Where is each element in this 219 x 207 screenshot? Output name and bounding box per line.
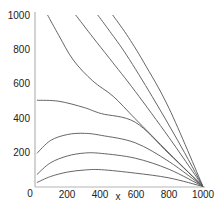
solution-curve	[76, 15, 203, 187]
x-tick-label: 800	[161, 189, 178, 200]
chart: 1000 800 600 400 200 0 200 400 x 600 800…	[0, 0, 219, 207]
curves-group	[37, 15, 203, 187]
solution-curve	[48, 15, 203, 187]
y-tick-label: 600	[13, 78, 30, 89]
y-tick-label: 800	[13, 44, 30, 55]
y-tick-label: 1000	[8, 10, 31, 21]
x-tick-label: 200	[59, 189, 76, 200]
solution-curve	[98, 15, 203, 187]
x-tick-label: 1000	[192, 189, 215, 200]
solution-curve	[37, 169, 203, 186]
y-tick-label: 200	[13, 147, 30, 158]
origin-label: 0	[27, 188, 33, 199]
x-axis: 0 200 400 x 600 800 1000	[27, 187, 214, 202]
x-tick-label: 600	[128, 189, 145, 200]
x-tick-label: 400	[92, 189, 109, 200]
x-axis-label: x	[116, 191, 121, 202]
y-axis: 1000 800 600 400 200	[8, 10, 35, 187]
y-tick-label: 400	[13, 113, 30, 124]
solution-curve	[37, 153, 203, 187]
